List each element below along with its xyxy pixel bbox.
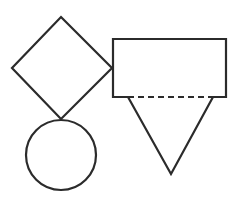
rectangle-shape [113,39,226,97]
shapes-diagram [0,0,244,199]
triangle-shape [128,97,213,174]
diamond-shape [12,17,112,119]
circle-shape [26,120,96,190]
